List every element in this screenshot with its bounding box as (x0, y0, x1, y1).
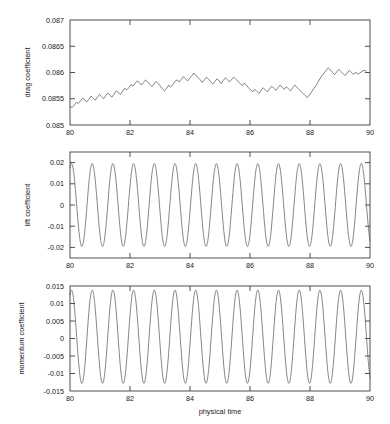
data-curve (70, 68, 366, 108)
y-tick-label: 0.01 (50, 299, 64, 308)
x-tick-label: 82 (126, 128, 134, 137)
y-tick-label: 0.02 (50, 158, 64, 167)
x-tick-label: 90 (366, 394, 374, 403)
y-tick-label: -0.02 (48, 243, 64, 252)
y-tick-label: 0 (60, 201, 64, 210)
x-tick-label: 90 (366, 128, 374, 137)
x-tick-label: 84 (186, 128, 194, 137)
y-tick-label: 0.0855 (42, 94, 64, 103)
y-tick-label: 0.085 (46, 121, 64, 130)
y-tick-label: -0.01 (48, 369, 64, 378)
x-tick-label: 90 (366, 261, 374, 270)
y-axis-title: lift coefficient (23, 184, 32, 227)
x-tick-label: 82 (126, 261, 134, 270)
figure-container: 0.0850.08550.0860.08650.087808284868890d… (0, 0, 390, 424)
y-tick-label: 0.0865 (42, 42, 64, 51)
chart-panel-0: 0.0850.08550.0860.08650.087808284868890d… (23, 16, 374, 137)
x-tick-label: 84 (186, 261, 194, 270)
y-tick-label: 0.086 (46, 68, 64, 77)
data-curve (70, 164, 370, 247)
y-tick-label: 0.015 (46, 282, 64, 291)
chart-panel-1: -0.02-0.0100.010.02808284868890lift coef… (23, 152, 374, 270)
x-tick-label: 88 (306, 128, 314, 137)
y-tick-label: -0.01 (48, 222, 64, 231)
y-axis-title: drag coefficient (23, 48, 32, 98)
y-tick-label: -0.005 (44, 352, 64, 361)
x-tick-label: 84 (186, 394, 194, 403)
x-tick-label: 80 (66, 394, 74, 403)
x-tick-label: 86 (246, 261, 254, 270)
x-axis-title: physical time (199, 407, 242, 416)
x-tick-label: 88 (306, 394, 314, 403)
x-tick-label: 80 (66, 261, 74, 270)
x-tick-label: 80 (66, 128, 74, 137)
multi-panel-chart: 0.0850.08550.0860.08650.087808284868890d… (0, 0, 390, 424)
chart-panel-2: -0.015-0.01-0.00500.0050.010.01580828486… (17, 282, 374, 416)
y-tick-label: 0 (60, 334, 64, 343)
y-tick-label: 0.087 (46, 16, 64, 25)
y-tick-label: 0.01 (50, 179, 64, 188)
x-tick-label: 82 (126, 394, 134, 403)
x-tick-label: 88 (306, 261, 314, 270)
y-tick-label: -0.015 (44, 387, 64, 396)
y-tick-label: 0.005 (46, 317, 64, 326)
x-tick-label: 86 (246, 394, 254, 403)
x-tick-label: 86 (246, 128, 254, 137)
y-axis-title: momentum coefficient (17, 302, 26, 374)
data-curve (70, 290, 370, 383)
